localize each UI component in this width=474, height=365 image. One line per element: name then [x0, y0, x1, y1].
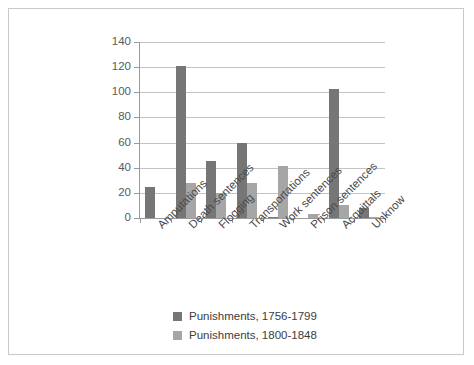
bar-group	[140, 42, 171, 218]
x-tick-mark	[354, 218, 355, 223]
x-tick-mark	[232, 218, 233, 223]
bar-group	[232, 42, 263, 218]
bar-group	[201, 42, 232, 218]
bar	[329, 89, 339, 218]
bar	[186, 183, 196, 218]
bar	[339, 205, 349, 218]
bar-group	[324, 42, 355, 218]
bar	[237, 143, 247, 218]
y-tick-label: 40	[97, 162, 131, 174]
x-tick-mark	[263, 218, 264, 223]
y-tick-label: 0	[97, 212, 131, 224]
bar-group	[263, 42, 294, 218]
bar	[206, 161, 216, 218]
chart-frame: 140120100806040200 AmputationsDeath sent…	[8, 8, 464, 355]
legend-swatch-icon	[173, 312, 182, 321]
legend-swatch-icon	[173, 331, 182, 340]
legend-label: Punishments, 1800-1848	[189, 330, 317, 342]
y-tick-label: 120	[97, 61, 131, 73]
y-tick-label: 140	[97, 36, 131, 48]
bar	[369, 217, 379, 218]
x-tick-mark	[385, 218, 386, 223]
chart-legend: Punishments, 1756-1799Punishments, 1800-…	[173, 307, 383, 345]
bar-group	[293, 42, 324, 218]
y-tick-label: 60	[97, 137, 131, 149]
y-tick-label: 20	[97, 187, 131, 199]
y-tick-label: 80	[97, 112, 131, 124]
x-tick-mark	[324, 218, 325, 223]
x-tick-mark	[201, 218, 202, 223]
plot-area	[140, 42, 385, 218]
bar	[247, 183, 257, 218]
bar	[359, 208, 369, 218]
bar	[308, 214, 318, 218]
legend-item: Punishments, 1756-1799	[173, 307, 383, 326]
bar	[268, 217, 278, 218]
x-tick-mark	[171, 218, 172, 223]
bar	[145, 187, 155, 218]
legend-label: Punishments, 1756-1799	[189, 311, 317, 323]
bar	[278, 166, 288, 218]
x-tick-mark	[140, 218, 141, 223]
bar-group	[171, 42, 202, 218]
legend-item: Punishments, 1800-1848	[173, 326, 383, 345]
bar	[216, 193, 226, 218]
x-tick-mark	[293, 218, 294, 223]
y-axis-tick-labels: 140120100806040200	[97, 42, 131, 218]
bar-group	[354, 42, 385, 218]
y-tick-label: 100	[97, 87, 131, 99]
bar	[176, 66, 186, 218]
